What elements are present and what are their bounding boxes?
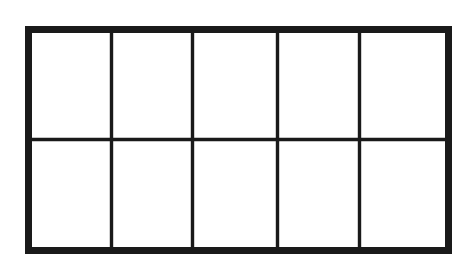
diagram-canvas xyxy=(0,0,473,264)
grid-cell-r2c3[interactable] xyxy=(195,142,275,247)
grid-cell-r1c1[interactable] xyxy=(32,33,109,137)
grid-cell-r2c2[interactable] xyxy=(114,142,190,247)
grid-cell-r1c5[interactable] xyxy=(362,33,445,137)
grid-cell-r1c2[interactable] xyxy=(114,33,190,137)
grid-cell-r2c5[interactable] xyxy=(362,142,445,247)
grid-cell-r1c3[interactable] xyxy=(195,33,275,137)
grid-cell-r2c1[interactable] xyxy=(32,142,109,247)
grid-cell-r1c4[interactable] xyxy=(280,33,357,137)
grid-rectangle-figure xyxy=(25,26,452,254)
grid-cell-r2c4[interactable] xyxy=(280,142,357,247)
